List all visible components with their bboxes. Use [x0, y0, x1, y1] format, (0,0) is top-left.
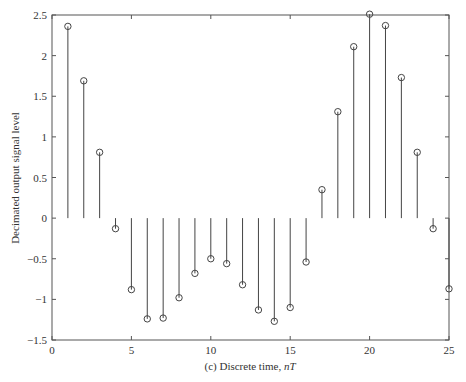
- y-tick-label: 1: [42, 131, 48, 143]
- x-tick-label: 10: [205, 344, 217, 356]
- y-tick-label: 2: [42, 50, 48, 62]
- y-tick-label: 0.5: [33, 172, 47, 184]
- x-tick-label: 20: [364, 344, 376, 356]
- axes-box: [52, 15, 449, 340]
- x-tick-label: 25: [444, 344, 456, 356]
- stems: [65, 11, 453, 325]
- ticks: 0510152025−1.5−1−0.500.511.522.5: [27, 9, 455, 356]
- y-tick-label: 1.5: [33, 90, 47, 102]
- x-axis-label-italic: nT: [284, 360, 297, 372]
- y-tick-label: 0: [42, 212, 48, 224]
- y-tick-label: −1: [35, 293, 47, 305]
- x-tick-label: 15: [285, 344, 297, 356]
- x-axis-label-prefix: (c) Discrete time,: [204, 360, 283, 373]
- y-tick-label: 2.5: [33, 9, 47, 21]
- plot-area: [52, 15, 449, 340]
- y-tick-label: −1.5: [27, 334, 47, 346]
- x-tick-label: 0: [49, 344, 55, 356]
- y-axis-label: Decimated output signal level: [9, 112, 21, 244]
- y-tick-label: −0.5: [27, 253, 47, 265]
- stem-chart: 0510152025−1.5−1−0.500.511.522.5 Decimat…: [0, 0, 466, 382]
- x-axis-label: (c) Discrete time, nT: [204, 360, 296, 373]
- x-tick-label: 5: [129, 344, 135, 356]
